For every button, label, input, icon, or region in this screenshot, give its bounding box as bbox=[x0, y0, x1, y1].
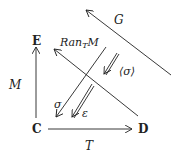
node-D: D bbox=[138, 123, 148, 135]
label-T: T bbox=[85, 140, 93, 152]
arrow-sigma-bracket bbox=[104, 53, 117, 74]
node-E: E bbox=[32, 35, 41, 47]
ran-base: Ran bbox=[60, 36, 82, 49]
arrow-ran bbox=[54, 49, 138, 116]
arrow-sigma-bracket-second bbox=[106, 54, 119, 75]
label-epsilon: ε bbox=[82, 108, 88, 119]
label-sigma: σ bbox=[54, 99, 62, 110]
label-M: M bbox=[9, 79, 21, 91]
label-sigma-bracket: ⟨σ⟩ bbox=[119, 66, 135, 77]
commutative-diagram: E C D M T G RanTM σ ⟨σ⟩ ε bbox=[0, 0, 182, 161]
label-G: G bbox=[114, 14, 124, 26]
node-C: C bbox=[32, 123, 42, 135]
ran-arg: M bbox=[88, 36, 99, 49]
diagram-arrows bbox=[0, 0, 182, 161]
label-ran: RanTM bbox=[60, 37, 99, 50]
